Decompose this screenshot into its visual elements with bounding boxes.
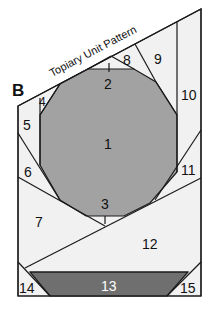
piece-label-8: 8 <box>123 52 131 68</box>
piece-label-1: 1 <box>104 136 112 152</box>
piece-label-5: 5 <box>23 117 31 133</box>
piece-label-13: 13 <box>101 278 117 294</box>
piece-label-11: 11 <box>181 162 196 178</box>
piece-label-9: 9 <box>154 51 162 67</box>
unit-label: B <box>12 81 24 100</box>
piece-label-2: 2 <box>104 76 112 92</box>
piece-label-12: 12 <box>142 236 158 252</box>
piece-label-15: 15 <box>180 280 196 296</box>
topiary-pattern-diagram: Topiary Unit Pattern B 1 2 3 4 5 6 7 8 9… <box>0 0 211 313</box>
piece-label-4: 4 <box>39 95 46 109</box>
piece-label-3: 3 <box>101 196 109 212</box>
piece-label-10: 10 <box>181 87 197 103</box>
piece-label-14: 14 <box>19 280 35 296</box>
piece-label-6: 6 <box>24 164 32 180</box>
piece-label-7: 7 <box>35 214 43 230</box>
